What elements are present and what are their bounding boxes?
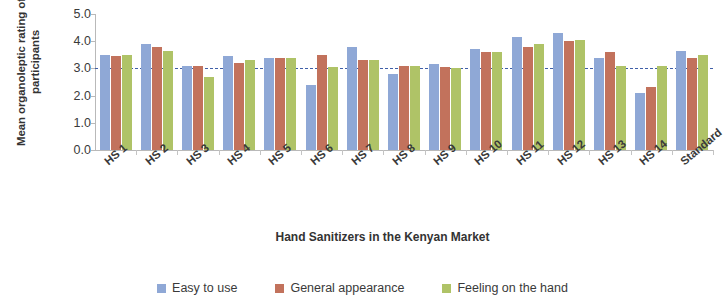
bar-general[interactable] bbox=[111, 56, 121, 150]
bar-easy[interactable] bbox=[429, 64, 439, 150]
bar-general[interactable] bbox=[687, 58, 697, 150]
x-axis-title: Hand Sanitizers in the Kenyan Market bbox=[0, 230, 725, 244]
bar-feeling[interactable] bbox=[245, 60, 255, 150]
y-axis-title-line2: participants bbox=[29, 30, 41, 94]
bar-general[interactable] bbox=[317, 55, 327, 150]
bar-general[interactable] bbox=[646, 87, 656, 150]
x-axis-tick bbox=[548, 150, 549, 155]
bar-easy[interactable] bbox=[594, 58, 604, 150]
bar-general[interactable] bbox=[605, 52, 615, 150]
bar-feeling[interactable] bbox=[286, 58, 296, 150]
x-axis-tick bbox=[301, 150, 302, 155]
bar-group bbox=[553, 14, 585, 150]
bar-general[interactable] bbox=[564, 41, 574, 150]
legend-label: Easy to use bbox=[172, 281, 237, 295]
bar-general[interactable] bbox=[523, 47, 533, 150]
y-axis-tick-labels: 5.04.03.02.01.00.0 bbox=[55, 14, 91, 151]
plot-area bbox=[95, 14, 713, 151]
legend-item[interactable]: General appearance bbox=[275, 281, 404, 295]
y-axis-tick-label: 1.0 bbox=[59, 118, 91, 128]
legend-item[interactable]: Easy to use bbox=[157, 281, 237, 295]
x-axis-tick bbox=[672, 150, 673, 155]
bar-feeling[interactable] bbox=[163, 51, 173, 150]
legend-swatch-icon bbox=[442, 284, 451, 293]
bar-group bbox=[635, 14, 667, 150]
bar-easy[interactable] bbox=[182, 66, 192, 150]
y-axis-title-line1: Mean organoleptic rating of the bbox=[15, 0, 27, 146]
y-axis-tick-label: 4.0 bbox=[59, 36, 91, 46]
x-axis-tick bbox=[177, 150, 178, 155]
bar-easy[interactable] bbox=[264, 58, 274, 150]
x-axis-tick bbox=[589, 150, 590, 155]
bar-general[interactable] bbox=[193, 66, 203, 150]
y-axis-tick-label: 0.0 bbox=[59, 145, 91, 155]
bar-easy[interactable] bbox=[141, 44, 151, 150]
legend-item[interactable]: Feeling on the hand bbox=[442, 281, 568, 295]
legend-swatch-icon bbox=[157, 284, 166, 293]
bar-feeling[interactable] bbox=[492, 52, 502, 150]
bar-feeling[interactable] bbox=[451, 68, 461, 150]
bar-group bbox=[141, 14, 173, 150]
bar-group bbox=[388, 14, 420, 150]
bar-general[interactable] bbox=[481, 52, 491, 150]
bar-easy[interactable] bbox=[306, 85, 316, 150]
chart-legend: Easy to useGeneral appearanceFeeling on … bbox=[0, 281, 725, 295]
y-axis-tick bbox=[91, 41, 95, 42]
bar-general[interactable] bbox=[275, 58, 285, 150]
y-axis-tick bbox=[91, 14, 95, 15]
y-axis-tick bbox=[91, 150, 95, 151]
bar-group bbox=[676, 14, 708, 150]
bar-feeling[interactable] bbox=[369, 60, 379, 150]
bar-feeling[interactable] bbox=[204, 77, 214, 150]
x-axis-tick bbox=[425, 150, 426, 155]
legend-label: General appearance bbox=[290, 281, 404, 295]
bar-general[interactable] bbox=[440, 67, 450, 150]
legend-label: Feeling on the hand bbox=[457, 281, 568, 295]
x-axis-tick bbox=[260, 150, 261, 155]
bar-feeling[interactable] bbox=[328, 67, 338, 150]
y-axis-tick-label: 3.0 bbox=[59, 63, 91, 73]
bar-feeling[interactable] bbox=[575, 40, 585, 150]
y-axis-line bbox=[95, 14, 96, 151]
bar-group bbox=[594, 14, 626, 150]
bar-easy[interactable] bbox=[470, 49, 480, 150]
bar-easy[interactable] bbox=[553, 33, 563, 150]
bar-easy[interactable] bbox=[512, 37, 522, 150]
x-axis-tick bbox=[219, 150, 220, 155]
bar-general[interactable] bbox=[399, 66, 409, 150]
bar-group bbox=[264, 14, 296, 150]
bar-group bbox=[347, 14, 379, 150]
bar-group bbox=[512, 14, 544, 150]
bar-general[interactable] bbox=[358, 60, 368, 150]
x-axis-tick bbox=[631, 150, 632, 155]
x-axis-tick bbox=[713, 150, 714, 155]
bar-feeling[interactable] bbox=[534, 44, 544, 150]
bar-easy[interactable] bbox=[635, 93, 645, 150]
bar-group bbox=[470, 14, 502, 150]
bar-general[interactable] bbox=[234, 63, 244, 150]
y-axis-tick bbox=[91, 96, 95, 97]
bar-easy[interactable] bbox=[676, 51, 686, 150]
bar-easy[interactable] bbox=[388, 74, 398, 150]
bar-group bbox=[223, 14, 255, 150]
y-axis-tick-label: 5.0 bbox=[59, 9, 91, 19]
bar-easy[interactable] bbox=[347, 47, 357, 150]
y-axis-tick bbox=[91, 123, 95, 124]
legend-swatch-icon bbox=[275, 284, 284, 293]
x-axis-tick bbox=[342, 150, 343, 155]
bar-group bbox=[306, 14, 338, 150]
bar-feeling[interactable] bbox=[410, 66, 420, 150]
bar-group bbox=[182, 14, 214, 150]
x-axis-tick bbox=[507, 150, 508, 155]
bar-easy[interactable] bbox=[223, 56, 233, 150]
bar-easy[interactable] bbox=[100, 55, 110, 150]
x-axis-tick bbox=[383, 150, 384, 155]
bar-feeling[interactable] bbox=[122, 55, 132, 150]
bar-group bbox=[429, 14, 461, 150]
x-axis-tick bbox=[466, 150, 467, 155]
bar-chart: Mean organoleptic rating of the particip… bbox=[0, 0, 725, 304]
y-axis-tick-label: 2.0 bbox=[59, 91, 91, 101]
bar-group bbox=[100, 14, 132, 150]
bar-general[interactable] bbox=[152, 47, 162, 150]
y-axis-title: Mean organoleptic rating of the particip… bbox=[14, 0, 42, 182]
